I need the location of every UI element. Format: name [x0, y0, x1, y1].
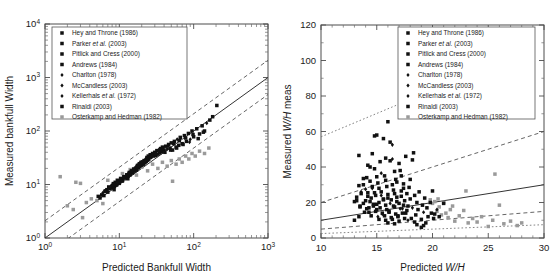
- data-point-gray-10: [106, 179, 110, 183]
- data-point-145: [432, 217, 436, 221]
- legend-marker-8: [60, 115, 64, 119]
- y-tick-label-5: 100: [300, 55, 316, 66]
- legend: Hey and Throne (1986)Parker et al. (2003…: [398, 27, 535, 121]
- data-point-4: [102, 194, 106, 198]
- data-point-140: [437, 215, 441, 219]
- data-point-gray-21: [498, 203, 502, 207]
- data-point-26: [385, 185, 389, 189]
- legend-label-0: Hey and Throne (1986): [418, 29, 484, 37]
- data-point-126: [377, 218, 381, 222]
- data-point-gray-1: [74, 181, 78, 185]
- data-point-51: [413, 194, 417, 198]
- data-point-56: [420, 218, 424, 222]
- data-point-88: [384, 179, 388, 183]
- data-point-89: [391, 183, 395, 187]
- legend-label-8: Osterkamp and Hedman (1982): [418, 113, 508, 121]
- data-point-113: [405, 209, 409, 213]
- data-point-gray-9: [449, 208, 453, 212]
- legend-marker-2: [60, 52, 64, 56]
- data-point-gray-19: [491, 219, 495, 223]
- figure-container: 100101102103100101102103104Predicted Ban…: [0, 0, 556, 275]
- data-point-74: [366, 163, 370, 167]
- x-axis-title: Predicted Bankfull Width: [102, 262, 211, 273]
- data-point-70: [388, 159, 392, 163]
- data-point-84: [357, 184, 361, 188]
- data-point-gray-11: [458, 214, 462, 218]
- data-point-gray-20: [493, 172, 497, 176]
- data-point-gray-18: [487, 225, 491, 229]
- x-tick-label-0: 10: [316, 242, 327, 253]
- legend-label-4: Charlton (1978): [418, 71, 462, 79]
- data-point-115: [374, 210, 378, 214]
- data-point-124: [396, 215, 400, 219]
- data-point-136: [422, 224, 426, 228]
- data-point-gray-17: [156, 167, 160, 171]
- data-point-72: [404, 155, 408, 159]
- data-point-97: [400, 195, 404, 199]
- data-point-117: [387, 211, 391, 215]
- data-point-89: [211, 115, 215, 119]
- data-point-120: [369, 214, 373, 218]
- y-axis-title: Measured bankfull Width: [4, 76, 15, 186]
- data-point-gray-24: [515, 224, 519, 228]
- data-point-21: [379, 190, 383, 194]
- data-point-125: [403, 217, 407, 221]
- data-point-gray-12: [462, 209, 466, 213]
- data-point-25: [384, 203, 388, 207]
- data-point-114: [367, 211, 371, 215]
- x-tick-label-2: 102: [187, 241, 202, 253]
- data-point-gray-30: [203, 152, 207, 156]
- data-point-58: [422, 210, 425, 214]
- data-point-50: [412, 151, 416, 155]
- data-point-71: [397, 162, 401, 166]
- data-point-111: [154, 152, 158, 156]
- data-point-122: [383, 214, 387, 218]
- data-point-gray-17: [480, 215, 484, 219]
- legend-label-4: Charlton (1978): [72, 71, 116, 79]
- data-point-gray-22: [502, 222, 506, 226]
- data-point-gray-4: [72, 208, 76, 212]
- legend-marker-3: [60, 63, 64, 67]
- data-point-87: [377, 187, 381, 191]
- y-tick-label-2: 102: [26, 125, 41, 137]
- data-point-gray-3: [66, 204, 70, 208]
- data-point-103: [388, 201, 391, 205]
- reference-line-lower-dotted: [321, 225, 544, 234]
- data-point-77: [393, 170, 397, 174]
- y-axis-title: Measured W/H meas: [282, 85, 293, 179]
- data-point-135: [184, 136, 188, 140]
- data-point-48: [410, 217, 414, 221]
- chart-svg-right: 1015202530020406080100120Predicted W/HMe…: [278, 0, 556, 275]
- data-point-109: [378, 206, 382, 210]
- data-point-139: [202, 130, 206, 134]
- data-point-gray-21: [171, 180, 175, 184]
- data-point-38: [398, 169, 402, 173]
- data-point-132: [175, 146, 179, 150]
- data-point-138: [196, 137, 200, 141]
- data-point-137: [431, 189, 435, 193]
- data-point-gray-7: [90, 197, 94, 201]
- data-point-9: [366, 191, 370, 195]
- data-point-30: [389, 198, 393, 202]
- data-point-83: [408, 178, 412, 182]
- data-point-63: [429, 201, 433, 205]
- legend-label-3: Andrews (1984): [418, 61, 463, 69]
- legend-marker-3: [406, 63, 410, 67]
- data-point-gray-6: [85, 201, 89, 205]
- data-point-101: [375, 203, 379, 207]
- data-point-83: [195, 127, 199, 131]
- data-point-76: [380, 171, 383, 175]
- data-point-93: [373, 191, 377, 195]
- data-point-133: [386, 221, 390, 225]
- data-point-gray-25: [520, 221, 524, 225]
- data-point-8: [365, 176, 369, 180]
- data-point-gray-26: [436, 197, 440, 201]
- data-point-69: [384, 156, 388, 160]
- data-point-90: [215, 104, 219, 108]
- data-point-99: [362, 202, 366, 206]
- data-point-86: [371, 185, 375, 189]
- data-point-131: [172, 142, 176, 146]
- data-point-gray-10: [453, 219, 457, 223]
- data-point-32: [392, 188, 396, 192]
- data-point-42: [403, 199, 407, 203]
